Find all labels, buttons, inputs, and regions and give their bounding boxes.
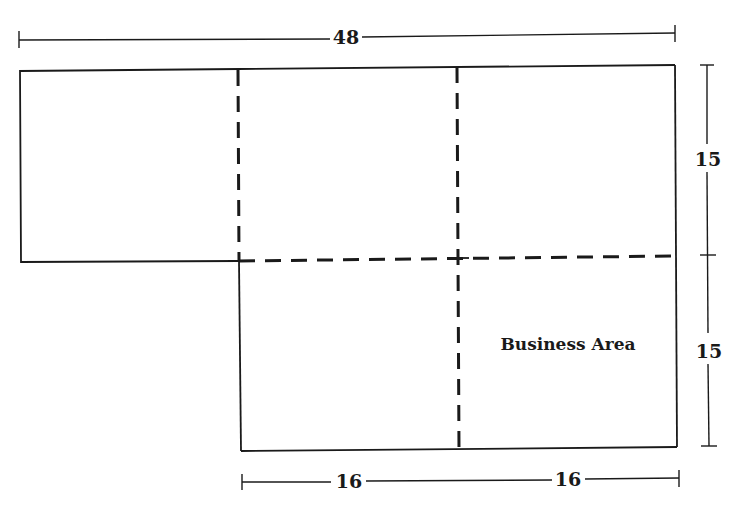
division-lines bbox=[228, 67, 675, 449]
dimension-label-right-16: 16 bbox=[555, 468, 581, 490]
dimension-right: 15 15 bbox=[695, 65, 722, 446]
dimension-bottom: 16 16 bbox=[242, 468, 679, 492]
dimension-label-upper-15: 15 bbox=[695, 148, 721, 170]
lower-left-edge bbox=[239, 261, 241, 451]
dimension-line-left-segment bbox=[19, 39, 330, 40]
dimension-line-middle bbox=[707, 172, 708, 333]
dimension-line-middle bbox=[366, 480, 552, 481]
dimension-label-left-16: 16 bbox=[336, 470, 362, 492]
dimension-line-right-segment bbox=[362, 33, 675, 37]
right-edge bbox=[675, 65, 677, 447]
bottom-edge bbox=[241, 447, 677, 451]
dimension-label-48: 48 bbox=[333, 26, 359, 48]
dimension-line-lower-b bbox=[708, 364, 709, 446]
dimension-line-right bbox=[585, 478, 679, 479]
dimension-top-48: 48 bbox=[19, 25, 675, 48]
floor-plan-diagram: 48 15 15 16 bbox=[0, 0, 735, 513]
business-area-label: Business Area bbox=[501, 334, 636, 354]
dashed-divider-left-vertical bbox=[238, 70, 239, 260]
left-block-outline bbox=[20, 69, 239, 262]
dimension-label-lower-15: 15 bbox=[696, 340, 722, 362]
